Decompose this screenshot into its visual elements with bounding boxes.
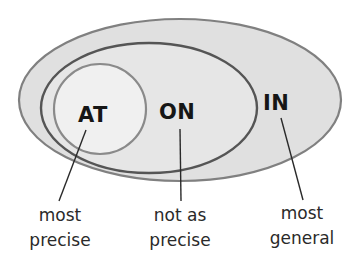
at-caption-line2: precise [10, 228, 110, 253]
at-keyword-label: AT [78, 105, 108, 126]
on-caption-line1: not as [130, 203, 230, 228]
in-caption-line2: general [252, 226, 352, 251]
in-caption-line1: most [252, 201, 352, 226]
on-caption-line2: precise [130, 228, 230, 253]
on-leader-line [180, 129, 181, 201]
on-caption: not as precise [130, 203, 230, 253]
at-caption: most precise [10, 203, 110, 253]
in-caption: most general [252, 201, 352, 251]
in-keyword-label: IN [263, 93, 289, 114]
on-keyword-label: ON [159, 102, 195, 123]
at-caption-line1: most [10, 203, 110, 228]
